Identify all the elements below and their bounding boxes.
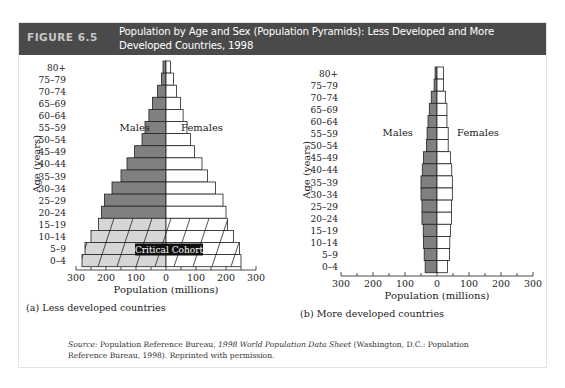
x-axis-title: Population (millions) bbox=[385, 290, 490, 301]
male-bar bbox=[424, 236, 437, 248]
age-tick-label: 65–69 bbox=[39, 99, 67, 109]
x-tick-label: 100 bbox=[187, 272, 205, 283]
caption-less-developed: (a) Less developed countries bbox=[26, 302, 166, 313]
x-tick-label: 300 bbox=[332, 278, 350, 289]
male-bar bbox=[428, 115, 437, 127]
female-bar bbox=[166, 146, 195, 158]
female-bar bbox=[437, 164, 452, 176]
age-tick-label: 75–79 bbox=[311, 81, 339, 91]
age-tick-label: 10–14 bbox=[39, 232, 67, 242]
male-bar bbox=[102, 206, 167, 218]
females-label: Females bbox=[457, 127, 499, 138]
male-bar bbox=[142, 134, 166, 146]
male-bar bbox=[149, 109, 166, 121]
female-bar bbox=[437, 79, 443, 91]
female-bar bbox=[166, 134, 191, 146]
age-tick-label: 25–29 bbox=[39, 196, 67, 206]
females-label: Females bbox=[181, 122, 223, 133]
pyramid-more-developed: 80+75–7970–7465–6960–6455–5950–5445–4940… bbox=[301, 67, 542, 301]
male-bar bbox=[426, 140, 437, 152]
female-bar bbox=[437, 261, 448, 273]
age-tick-label: 20–24 bbox=[311, 214, 339, 224]
male-bar bbox=[422, 164, 437, 176]
pyramid-less-developed: 80+75–7970–7465–6960–6455–5950–5445–4940… bbox=[0, 61, 323, 295]
male-bar bbox=[153, 97, 167, 109]
male-bar bbox=[112, 182, 166, 194]
age-tick-label: 45–49 bbox=[39, 147, 67, 157]
male-bar bbox=[135, 146, 167, 158]
male-bar bbox=[422, 200, 437, 212]
age-tick-label: 40–44 bbox=[311, 165, 339, 175]
male-bar bbox=[158, 85, 166, 97]
male-bar bbox=[121, 170, 166, 182]
female-bar bbox=[437, 236, 450, 248]
male-bar bbox=[422, 212, 437, 224]
male-bar bbox=[162, 73, 167, 85]
source-text-before: Population Reference Bureau, bbox=[98, 340, 218, 349]
source-publication: 1998 World Population Data Sheet bbox=[218, 340, 351, 349]
male-bar bbox=[105, 194, 167, 206]
age-tick-label: 5–9 bbox=[322, 250, 338, 260]
source-label: Source: bbox=[68, 340, 98, 349]
y-axis-title: Age (years) bbox=[31, 135, 42, 194]
x-tick-label: 100 bbox=[460, 278, 478, 289]
male-bar bbox=[429, 103, 437, 115]
caption-more-developed: (b) More developed countries bbox=[300, 308, 444, 319]
age-tick-label: 35–39 bbox=[311, 178, 339, 188]
female-bar bbox=[437, 67, 443, 79]
female-bar bbox=[166, 194, 223, 206]
male-bar bbox=[425, 261, 437, 273]
males-label: Males bbox=[120, 122, 150, 133]
female-bar bbox=[437, 249, 449, 261]
x-tick-label: 300 bbox=[524, 278, 542, 289]
female-bar bbox=[437, 224, 450, 236]
female-bar bbox=[166, 158, 202, 170]
x-tick-label: 100 bbox=[127, 272, 145, 283]
age-tick-label: 40–44 bbox=[39, 159, 67, 169]
female-bar bbox=[437, 91, 445, 103]
male-bar bbox=[421, 188, 437, 200]
x-tick-label: 100 bbox=[396, 278, 414, 289]
female-bar bbox=[166, 109, 183, 121]
x-axis: 3002001000100200300Population (millions) bbox=[332, 272, 542, 301]
male-bar bbox=[427, 128, 437, 140]
age-tick-label: 50–54 bbox=[39, 135, 67, 145]
male-bar bbox=[421, 176, 437, 188]
female-bar bbox=[166, 170, 207, 182]
male-bar bbox=[424, 249, 437, 261]
female-bar bbox=[437, 212, 451, 224]
female-bar bbox=[166, 97, 180, 109]
female-bar bbox=[437, 188, 452, 200]
male-bar bbox=[163, 61, 166, 73]
male-bar bbox=[423, 224, 437, 236]
female-bar bbox=[166, 218, 228, 230]
x-tick-label: 0 bbox=[163, 272, 169, 283]
age-tick-label: 35–39 bbox=[39, 172, 67, 182]
age-tick-label: 0–4 bbox=[322, 262, 338, 272]
age-tick-label: 45–49 bbox=[311, 153, 339, 163]
source-note: Source: Population Reference Bureau, 199… bbox=[68, 339, 508, 361]
male-bar bbox=[127, 158, 166, 170]
age-tick-label: 5–9 bbox=[50, 244, 66, 254]
age-tick-label: 80+ bbox=[47, 63, 66, 73]
age-tick-label: 70–74 bbox=[39, 87, 67, 97]
female-bar bbox=[166, 73, 174, 85]
female-bar bbox=[437, 176, 452, 188]
age-tick-label: 25–29 bbox=[311, 202, 339, 212]
x-tick-label: 0 bbox=[434, 278, 440, 289]
male-bar bbox=[431, 91, 437, 103]
male-bar bbox=[82, 255, 166, 267]
female-bar bbox=[437, 103, 447, 115]
female-bar bbox=[437, 115, 447, 127]
male-bar bbox=[424, 152, 437, 164]
age-tick-label: 55–59 bbox=[311, 129, 339, 139]
x-axis: 3002001000100200300Population (millions) bbox=[67, 266, 265, 295]
female-bar bbox=[166, 206, 226, 218]
age-tick-label: 20–24 bbox=[39, 208, 67, 218]
female-bar bbox=[437, 128, 448, 140]
x-tick-label: 300 bbox=[67, 272, 85, 283]
age-tick-label: 75–79 bbox=[39, 75, 67, 85]
female-bar bbox=[166, 61, 171, 73]
age-tick-label: 30–34 bbox=[39, 184, 67, 194]
female-bar bbox=[166, 182, 216, 194]
